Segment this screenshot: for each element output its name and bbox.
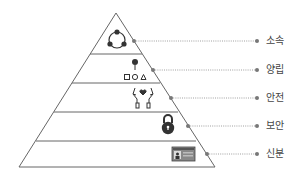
id-card-icon: [172, 147, 195, 161]
level-label-identity: 신분: [266, 148, 284, 160]
level-label-belonging: 소속: [266, 35, 284, 47]
level-label-safety: 안전: [266, 92, 284, 104]
level-label-security: 보안: [266, 120, 284, 132]
pyramid-outline: [19, 13, 215, 167]
pyramid-diagram: [0, 0, 298, 179]
level-label-compatibility: 양립: [266, 64, 284, 76]
